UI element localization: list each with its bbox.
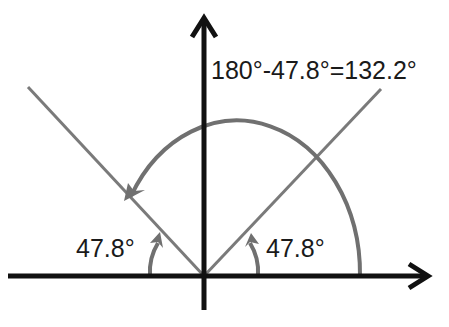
right-angle-label: 47.8° <box>266 236 325 261</box>
angle-equation-label: 180°-47.8°=132.2° <box>211 58 417 83</box>
left-angle-label: 47.8° <box>76 236 135 261</box>
left-angle-arc <box>150 243 158 276</box>
swept-angle-arc <box>131 121 360 276</box>
angle-diagram <box>0 0 449 327</box>
right-angle-arc <box>250 243 258 276</box>
